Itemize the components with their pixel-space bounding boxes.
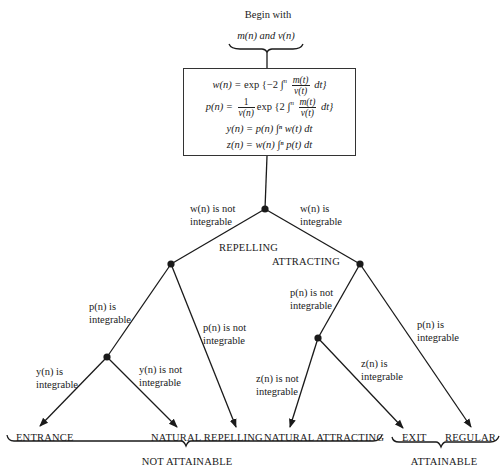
formula-w-den: v(t)	[292, 86, 310, 96]
formula-w-lhs: w(n) =	[212, 79, 244, 90]
formula-p-num2: m(t)	[299, 97, 317, 108]
label-z-not-integrable: z(n) is not integrable	[256, 372, 299, 398]
label-z-integrable-line2: integrable	[361, 370, 403, 383]
label-p-integrable-left: p(n) is integrable	[89, 300, 131, 326]
edge-p-integrable-right	[360, 264, 471, 427]
label-y-integrable-line1: y(n) is	[36, 365, 78, 378]
label-p-not-integrable-right: p(n) is not integrable	[290, 286, 333, 312]
label-w-integrable: w(n) is integrable	[300, 202, 342, 228]
label-p-not-integrable-left: p(n) is not integrable	[203, 321, 246, 347]
label-w-not-integrable-line1: w(n) is not	[190, 202, 236, 215]
connector-box-to-node	[265, 156, 267, 209]
label-repelling: REPELLING	[219, 241, 278, 254]
formula-p-frac2: m(t)v(t)	[299, 97, 317, 118]
label-y-not-integrable: y(n) is not integrable	[139, 363, 182, 389]
outcome-regular: REGULAR	[445, 431, 496, 444]
formula-w-num: m(t)	[292, 75, 310, 86]
outcome-natural-repelling: NATURAL REPELLING	[151, 431, 263, 444]
formula-z: z(n) = w(n) ∫ⁿ p(t) dt	[184, 139, 355, 150]
label-y-not-integrable-line1: y(n) is not	[139, 363, 182, 376]
formula-p-exp: exp {2 ∫	[257, 101, 291, 112]
formula-p: p(n) = 1v(n)exp {2 ∫n m(t)v(t) dt}	[184, 97, 355, 118]
formula-p-num: 1	[238, 97, 255, 108]
label-w-not-integrable-line2: integrable	[190, 215, 236, 228]
label-w-not-integrable: w(n) is not integrable	[190, 202, 236, 228]
label-p-integrable-right: p(n) is integrable	[417, 318, 459, 344]
label-p-integrable-right-line2: integrable	[417, 331, 459, 344]
formula-w: w(n) = exp {−2 ∫n m(t)v(t) dt}	[184, 75, 355, 96]
begin-label: Begin with	[245, 8, 291, 21]
label-w-integrable-line1: w(n) is	[300, 202, 342, 215]
outcome-entrance: ENTRANCE	[16, 431, 74, 444]
formula-p-post: dt}	[321, 101, 333, 112]
outcome-natural-attracting: NATURAL ATTRACTING	[264, 431, 384, 444]
formula-p-den2: v(t)	[299, 108, 317, 118]
label-y-not-integrable-line2: integrable	[139, 376, 182, 389]
inputs-label: m(n) and v(n)	[237, 29, 295, 42]
formula-w-frac: m(t)v(t)	[292, 75, 310, 96]
label-y-integrable-line2: integrable	[36, 378, 78, 391]
label-attracting: ATTRACTING	[272, 255, 340, 268]
label-p-integrable-left-line1: p(n) is	[89, 300, 131, 313]
label-p-not-integrable-left-line2: integrable	[203, 334, 246, 347]
formula-p-lhs: p(n) =	[206, 101, 236, 112]
label-w-integrable-line2: integrable	[300, 215, 342, 228]
node-y	[103, 353, 110, 360]
label-z-not-integrable-line1: z(n) is not	[256, 372, 299, 385]
formula-w-sup: n	[284, 77, 288, 85]
formula-w-exp: exp {−2 ∫	[244, 79, 284, 90]
label-p-integrable-left-line2: integrable	[89, 313, 131, 326]
group-attainable: ATTAINABLE	[411, 455, 477, 468]
label-p-not-integrable-right-line1: p(n) is not	[290, 286, 333, 299]
node-p-left	[167, 260, 174, 267]
formula-p-frac1: 1v(n)	[238, 97, 255, 118]
node-z	[314, 334, 321, 341]
edge-z-integrable	[318, 338, 403, 428]
label-z-integrable: z(n) is integrable	[361, 357, 403, 383]
outcome-exit: EXIT	[402, 431, 427, 444]
label-p-not-integrable-left-line1: p(n) is not	[203, 321, 246, 334]
formula-w-post: dt}	[314, 79, 326, 90]
formula-p-sup: n	[290, 99, 294, 107]
node-w	[261, 205, 268, 212]
formula-y: y(n) = p(n) ∫ⁿ w(t) dt	[184, 123, 355, 134]
label-z-integrable-line1: z(n) is	[361, 357, 403, 370]
label-p-not-integrable-right-line2: integrable	[290, 299, 333, 312]
label-y-integrable: y(n) is integrable	[36, 365, 78, 391]
input-brace	[229, 44, 303, 52]
node-p-right	[356, 260, 363, 267]
formula-p-den: v(n)	[238, 108, 255, 118]
group-not-attainable: NOT ATTAINABLE	[142, 455, 233, 468]
formula-box: w(n) = exp {−2 ∫n m(t)v(t) dt} p(n) = 1v…	[183, 68, 356, 156]
label-z-not-integrable-line2: integrable	[256, 385, 299, 398]
label-p-integrable-right-line1: p(n) is	[417, 318, 459, 331]
